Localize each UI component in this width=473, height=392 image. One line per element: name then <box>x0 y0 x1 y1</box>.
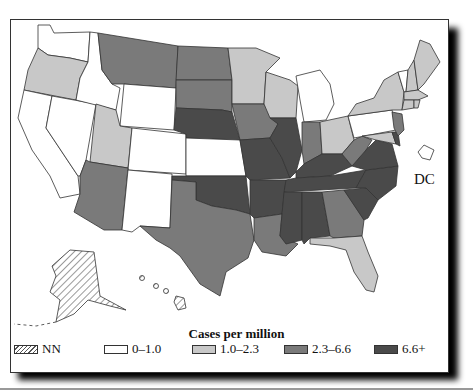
state-WY <box>120 84 176 130</box>
state-CT <box>402 100 414 110</box>
state-MT <box>98 33 178 88</box>
bottom-rule <box>0 388 473 390</box>
state-KS <box>186 138 246 176</box>
state-FL <box>310 236 378 292</box>
dark-gray-swatch <box>374 345 398 354</box>
state-AR <box>250 180 286 218</box>
legend-title: Cases per million <box>0 326 473 342</box>
state-ND <box>176 46 232 80</box>
state-DC <box>418 145 434 160</box>
state-WI <box>264 72 298 118</box>
legend-item-1-2: 1.0–2.3 <box>192 341 259 357</box>
legend-label: 2.3–6.6 <box>312 341 351 357</box>
hatch-swatch <box>14 345 38 354</box>
legend-item-0-1: 0–1.0 <box>104 341 161 357</box>
state-AK <box>50 250 126 322</box>
light-gray-swatch <box>192 345 216 354</box>
state-CO <box>128 128 186 174</box>
legend: NN 0–1.0 1.0–2.3 2.3–6.6 6.6+ <box>0 341 473 355</box>
hawaii-island <box>164 289 169 294</box>
state-RI <box>414 100 420 108</box>
legend-label: 1.0–2.3 <box>220 341 259 357</box>
legend-item-6-plus: 6.6+ <box>374 341 426 357</box>
legend-item-2-6: 2.3–6.6 <box>284 341 351 357</box>
white-swatch <box>104 345 128 354</box>
hawaii-island <box>154 284 159 289</box>
state-MA <box>404 90 428 100</box>
legend-label: 0–1.0 <box>132 341 161 357</box>
legend-label: 6.6+ <box>402 341 426 357</box>
hawaii-island <box>140 276 145 281</box>
state-MI <box>296 70 334 122</box>
state-NY <box>348 72 404 116</box>
state-AZ <box>74 160 128 230</box>
state-NM <box>122 170 172 232</box>
state-SD <box>176 80 232 112</box>
state-HI <box>174 296 186 310</box>
mid-gray-swatch <box>284 345 308 354</box>
legend-label: NN <box>42 341 61 357</box>
legend-item-nn: NN <box>14 341 61 357</box>
state-MS <box>280 192 302 244</box>
dc-label: DC <box>414 171 435 187</box>
state-ME <box>414 40 440 90</box>
